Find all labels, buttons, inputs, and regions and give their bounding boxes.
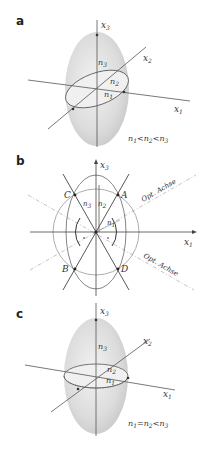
index-ellipsoid-biaxial: x3 x2 x1 n3 n2 n1 n1<n2<n3 [0, 0, 202, 150]
optical-axis-lower-label: Opt. Achse [142, 252, 180, 278]
x3-arrowhead-icon [94, 159, 98, 164]
x3-label: x3 [100, 160, 109, 171]
point-C [74, 194, 77, 197]
n2-label: n2 [98, 200, 107, 209]
panel-b: b x3 x1 C A B D [0, 150, 202, 300]
x1-intercept-dot [123, 91, 126, 94]
x2-intercept-dot [77, 388, 80, 391]
x3-label: x3 [101, 20, 110, 31]
x2-label: x2 [143, 53, 152, 64]
origin-dot [94, 230, 97, 233]
relation-text-c: n1=n2<n3 [128, 419, 169, 429]
point-C-label: C [64, 190, 71, 200]
x1-label: x1 [163, 389, 172, 400]
point-A [117, 194, 120, 197]
index-ellipsoid-uniaxial: x3 x2 x1 n3 n2 n1 n1=n2<n3 [0, 295, 202, 450]
x1-arrowhead-icon [192, 230, 197, 234]
x3-intercept-dot [96, 34, 99, 37]
relation-text-a: n1<n2<n3 [128, 134, 169, 144]
right-angle-dot-left [83, 237, 85, 239]
x2-intercept-dot [72, 108, 75, 111]
x1-label: x1 [184, 237, 193, 248]
optical-axis-upper-label: Opt. Achse [140, 177, 178, 203]
x2-label: x2 [143, 336, 152, 347]
x1-label: x1 [174, 104, 183, 115]
point-B-label: B [61, 264, 69, 274]
x3-intercept-dot [95, 319, 98, 322]
x3-label: x3 [100, 306, 109, 317]
panel-a: a x3 x2 x1 n3 n2 n1 n1<n2<n3 [0, 0, 202, 150]
right-angle-dot-right [107, 237, 109, 239]
n1-label: n1 [107, 219, 115, 228]
point-D-label: D [120, 264, 128, 274]
n3-label: n3 [83, 200, 92, 209]
optical-axis-lower [28, 195, 194, 290]
point-D [117, 268, 120, 271]
x1-intercept-dot [127, 377, 130, 380]
panel-c: c x3 x2 x1 n3 n2 n1 n1=n2<n3 [0, 295, 202, 450]
cross-section-construction: x3 x1 C A B D n3 n2 n1 Opt. Achse Opt. A… [0, 150, 202, 300]
point-A-label: A [120, 190, 128, 200]
point-B [74, 268, 77, 271]
